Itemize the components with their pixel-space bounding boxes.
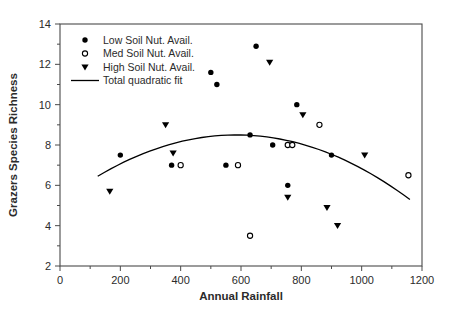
- x-tick-label: 800: [292, 274, 310, 286]
- x-tick-label: 1000: [349, 274, 373, 286]
- y-tick-label: 6: [45, 179, 51, 191]
- low-series-point: [329, 152, 334, 157]
- low-series-point: [270, 142, 275, 147]
- low-series-point: [294, 102, 299, 107]
- legend-item-label: Med Soil Nut. Avail.: [103, 47, 194, 59]
- high-series-point: [162, 122, 169, 128]
- x-tick-label: 200: [111, 274, 129, 286]
- legend-marker-filled-circle: [82, 37, 87, 42]
- high-series-point: [323, 205, 330, 211]
- chart-svg: 0200400600800100012002468101214Annual Ra…: [0, 0, 455, 320]
- med-series-point: [317, 122, 322, 127]
- legend-item-label: Low Soil Nut. Avail.: [103, 34, 193, 46]
- x-tick-label: 600: [232, 274, 250, 286]
- legend-item-label: High Soil Nut. Avail.: [103, 61, 195, 73]
- high-series-point: [299, 112, 306, 118]
- y-tick-label: 14: [39, 18, 51, 30]
- high-series-point: [106, 189, 113, 195]
- x-tick-label: 1200: [410, 274, 434, 286]
- med-series-point: [290, 142, 295, 147]
- x-axis-title: Annual Rainfall: [199, 290, 283, 302]
- high-series-point: [266, 60, 273, 66]
- y-tick-label: 12: [39, 58, 51, 70]
- med-series-point: [247, 233, 252, 238]
- med-series-point: [235, 163, 240, 168]
- high-series-point: [284, 195, 291, 201]
- low-series-point: [247, 132, 252, 137]
- low-series-point: [253, 43, 258, 48]
- y-tick-label: 8: [45, 139, 51, 151]
- low-series-point: [208, 70, 213, 75]
- med-series-point: [406, 173, 411, 178]
- low-series-point: [118, 152, 123, 157]
- low-series-point: [285, 183, 290, 188]
- x-tick-label: 400: [171, 274, 189, 286]
- y-tick-label: 4: [45, 220, 51, 232]
- fit-curve: [98, 135, 410, 200]
- y-tick-label: 2: [45, 260, 51, 272]
- legend-item-label: Total quadratic fit: [103, 74, 182, 86]
- low-series-point: [169, 162, 174, 167]
- low-series-point: [223, 162, 228, 167]
- y-axis-title: Grazers Species Richness: [7, 73, 19, 217]
- low-series-point: [214, 82, 219, 87]
- high-series-point: [361, 152, 368, 158]
- high-series-point: [170, 150, 177, 156]
- x-tick-label: 0: [57, 274, 63, 286]
- high-series-point: [334, 223, 341, 229]
- y-tick-label: 10: [39, 99, 51, 111]
- legend-marker-open-circle: [82, 51, 87, 56]
- med-series-point: [178, 163, 183, 168]
- legend-marker-filled-triangle-down: [81, 64, 88, 70]
- chart: 0200400600800100012002468101214Annual Ra…: [0, 0, 455, 320]
